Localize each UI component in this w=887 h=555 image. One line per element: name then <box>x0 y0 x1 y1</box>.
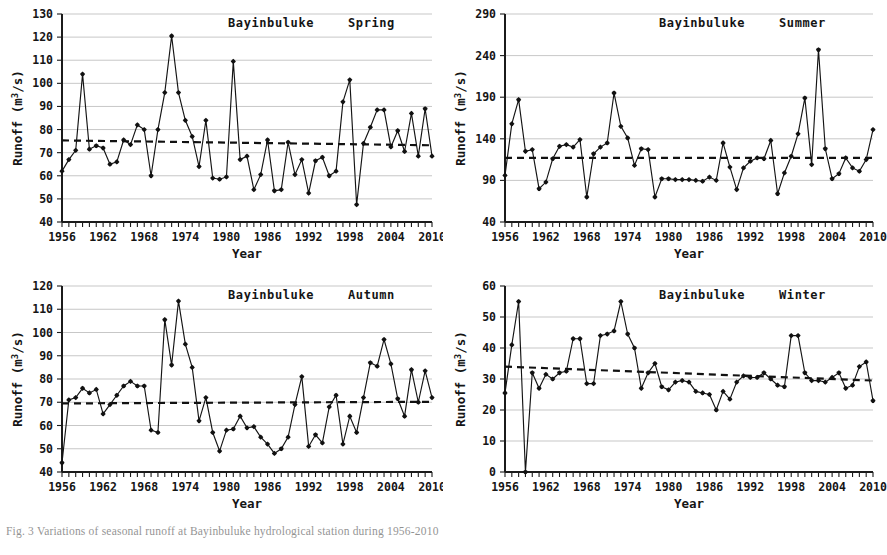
x-tick-label: 1956 <box>48 480 76 494</box>
data-point-marker <box>809 162 814 167</box>
x-tick-label: 2010 <box>859 230 887 244</box>
y-tick-label: 30 <box>482 372 496 386</box>
data-point-marker <box>176 299 181 304</box>
x-tick-label: 1992 <box>295 480 323 494</box>
panel-season-label: Winter <box>779 288 826 302</box>
data-point-marker <box>162 317 167 322</box>
data-point-marker <box>217 448 222 453</box>
data-point-marker <box>101 145 106 150</box>
data-point-marker <box>231 426 236 431</box>
y-tick-label: 40 <box>482 215 496 229</box>
data-point-marker <box>409 367 414 372</box>
data-point-marker <box>196 164 201 169</box>
x-tick-label: 1998 <box>336 480 364 494</box>
data-point-marker <box>313 158 318 163</box>
data-point-marker <box>870 398 875 403</box>
data-point-marker <box>625 135 630 140</box>
x-tick-label: 1980 <box>655 480 683 494</box>
chart-summer: 4090140190240290195619621968197419801986… <box>443 0 887 272</box>
y-tick-label: 80 <box>39 123 53 137</box>
data-point-marker <box>87 147 92 152</box>
data-point-marker <box>94 387 99 392</box>
x-tick-label: 1962 <box>532 480 560 494</box>
panel-station-label: Bayinbuluke <box>659 16 745 30</box>
y-axis-title: Runoff (m3/s) <box>453 70 468 166</box>
y-tick-label: 60 <box>482 279 496 293</box>
data-point-marker <box>686 177 691 182</box>
data-point-marker <box>502 173 507 178</box>
data-point-marker <box>693 178 698 183</box>
data-point-marker <box>183 342 188 347</box>
panel-station-label: Bayinbuluke <box>228 16 314 30</box>
y-tick-label: 100 <box>32 76 53 90</box>
x-tick-label: 1980 <box>655 230 683 244</box>
data-point-marker <box>320 155 325 160</box>
data-point-marker <box>632 163 637 168</box>
y-tick-label: 50 <box>39 192 53 206</box>
x-tick-label: 2004 <box>377 480 405 494</box>
data-point-marker <box>652 194 657 199</box>
data-point-marker <box>279 187 284 192</box>
data-point-marker <box>306 444 311 449</box>
x-tick-label: 1962 <box>89 230 117 244</box>
y-tick-label: 60 <box>39 169 53 183</box>
data-point-marker <box>94 143 99 148</box>
data-point-marker <box>802 95 807 100</box>
data-point-marker <box>516 299 521 304</box>
series-line <box>62 36 432 205</box>
data-point-marker <box>142 383 147 388</box>
x-tick-label: 1974 <box>171 480 199 494</box>
data-point-marker <box>354 202 359 207</box>
data-point-marker <box>611 328 616 333</box>
data-point-marker <box>720 140 725 145</box>
x-tick-label: 1956 <box>491 230 519 244</box>
data-point-marker <box>625 331 630 336</box>
x-tick-label: 1998 <box>336 230 364 244</box>
data-point-marker <box>196 418 201 423</box>
data-point-marker <box>502 390 507 395</box>
x-tick-label: 2010 <box>418 230 443 244</box>
x-tick-label: 1992 <box>295 230 323 244</box>
x-tick-label: 1986 <box>254 230 282 244</box>
trend-line <box>62 140 432 145</box>
data-point-marker <box>224 428 229 433</box>
data-point-marker <box>299 374 304 379</box>
y-tick-label: 120 <box>32 30 53 44</box>
data-point-marker <box>368 125 373 130</box>
series-line <box>505 302 873 473</box>
data-point-marker <box>416 400 421 405</box>
y-axis-title: Runoff (m3/s) <box>10 70 25 166</box>
data-point-marker <box>333 393 338 398</box>
data-point-marker <box>611 90 616 95</box>
data-point-marker <box>857 169 862 174</box>
y-tick-label: 100 <box>32 326 53 340</box>
data-point-marker <box>755 155 760 160</box>
y-tick-label: 110 <box>32 53 53 67</box>
data-point-marker <box>340 99 345 104</box>
data-point-marker <box>162 90 167 95</box>
y-axis-title: Runoff (m3/s) <box>10 331 25 427</box>
y-tick-label: 90 <box>482 173 496 187</box>
y-tick-label: 10 <box>482 434 496 448</box>
data-point-marker <box>368 360 373 365</box>
data-point-marker <box>700 179 705 184</box>
data-point-marker <box>238 157 243 162</box>
x-tick-label: 1992 <box>736 230 764 244</box>
data-point-marker <box>584 194 589 199</box>
data-point-marker <box>375 364 380 369</box>
panel-season-label: Autumn <box>348 288 395 302</box>
x-tick-label: 1968 <box>573 230 601 244</box>
x-axis-title: Year <box>232 496 263 511</box>
data-point-marker <box>286 435 291 440</box>
data-point-marker <box>509 121 514 126</box>
data-point-marker <box>509 342 514 347</box>
data-point-marker <box>632 345 637 350</box>
data-point-marker <box>523 469 528 474</box>
y-tick-label: 90 <box>39 99 53 113</box>
chart-panel-summer: 4090140190240290195619621968197419801986… <box>443 0 887 272</box>
data-point-marker <box>564 142 569 147</box>
series-line <box>505 50 873 197</box>
data-point-marker <box>409 111 414 116</box>
y-tick-label: 60 <box>39 419 53 433</box>
data-point-marker <box>395 128 400 133</box>
